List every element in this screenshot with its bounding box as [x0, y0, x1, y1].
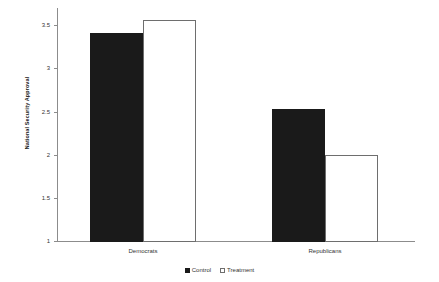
y-tick-mark-3.5: [54, 25, 58, 26]
legend-label-control: Control: [192, 267, 211, 273]
x-axis-label-republicans: Republicans: [265, 248, 385, 254]
y-axis-line: [57, 8, 58, 242]
bar-democrats-control: [90, 33, 143, 242]
legend-label-treatment: Treatment: [227, 267, 254, 273]
y-tick-label-2.5: 2.5: [24, 109, 50, 115]
y-tick-mark-3: [54, 68, 58, 69]
empty-square-icon: [220, 268, 225, 273]
y-tick-label-1: 1: [24, 238, 50, 244]
y-tick-label-2: 2: [24, 152, 50, 158]
legend: Control Treatment: [0, 267, 439, 273]
filled-square-icon: [185, 268, 190, 273]
x-axis-label-democrats: Democrats: [83, 248, 203, 254]
bar-republicans-control: [272, 109, 325, 242]
y-tick-label-3: 3: [24, 65, 50, 71]
bar-chart: National Security Approval 3.5 3 2.5 2 1…: [0, 0, 439, 282]
bar-republicans-treatment: [325, 155, 378, 242]
y-tick-label-1.5: 1.5: [24, 195, 50, 201]
y-tick-label-3.5: 3.5: [24, 22, 50, 28]
y-tick-mark-2.5: [54, 112, 58, 113]
legend-item-treatment: Treatment: [220, 267, 254, 273]
legend-item-control: Control: [185, 267, 211, 273]
y-tick-mark-1.5: [54, 198, 58, 199]
y-tick-mark-1: [54, 241, 58, 242]
bar-democrats-treatment: [143, 20, 196, 242]
y-tick-mark-2: [54, 155, 58, 156]
